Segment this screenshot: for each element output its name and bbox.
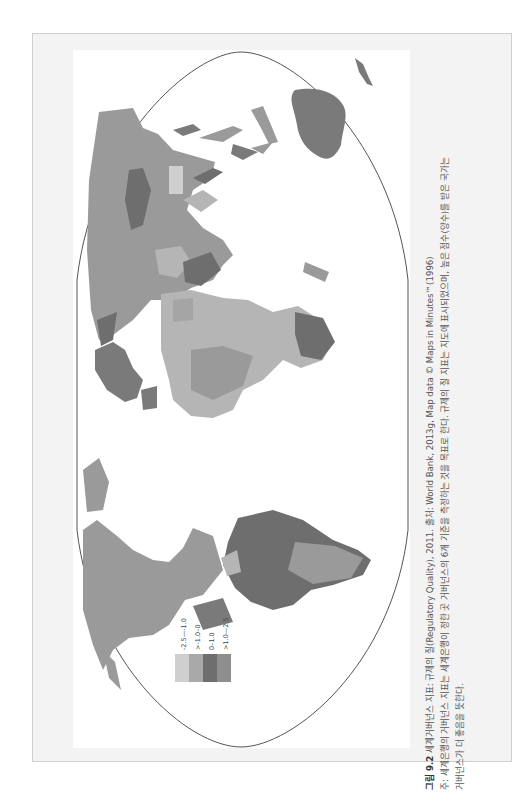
region-alaska xyxy=(103,650,121,690)
region-new-zealand xyxy=(355,58,373,86)
figure-title: 세계거버넌스 지표: 규제의 질(Regulatory Quality), 20… xyxy=(425,256,435,753)
legend-swatch-mid xyxy=(203,654,217,682)
legend-label: -2.5—-1.0 xyxy=(177,617,191,650)
figure-number: 그림 9.2 xyxy=(425,756,435,790)
legend-swatch-very-low xyxy=(175,654,189,682)
legend-swatch-1 xyxy=(169,166,183,194)
legend-box: -2.5—-1.0 >-1.0–0 0–1.0 >1.0—2.5 xyxy=(173,614,233,684)
legend-label: >1.0—2.5 xyxy=(219,617,233,650)
legend xyxy=(169,166,183,194)
caption-note-line-1: 주: 세계은행의 거버넌스 지표는 세계은행이 정한 곳 거버넌스의 6개 기준… xyxy=(438,90,453,790)
legend-swatch-high xyxy=(217,654,231,682)
caption-note-line-2: 거버넌스가 더 좋음을 뜻한다. xyxy=(453,90,468,790)
region-spain xyxy=(141,386,157,410)
legend-label: >-1.0–0 xyxy=(191,617,205,650)
figure-caption: 그림 9.2 세계거버넌스 지표: 규제의 질(Regulatory Quali… xyxy=(423,90,468,790)
region-africa-north xyxy=(173,298,193,322)
legend-labels: -2.5—-1.0 >-1.0–0 0–1.0 >1.0—2.5 xyxy=(177,617,233,650)
caption-title-line: 그림 9.2 세계거버넌스 지표: 규제의 질(Regulatory Quali… xyxy=(423,90,438,790)
world-map-panel: -2.5—-1.0 >-1.0–0 0–1.0 >1.0—2.5 xyxy=(73,50,410,748)
legend-label: 0–1.0 xyxy=(205,617,219,650)
world-map xyxy=(73,50,410,748)
legend-swatch-low xyxy=(189,654,203,682)
